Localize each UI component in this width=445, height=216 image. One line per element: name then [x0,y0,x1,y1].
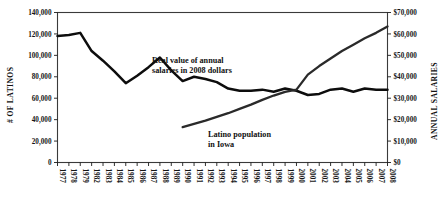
x-axis-tick-label: 1986 [138,169,146,184]
y-axis-right-tick-label: $70,000 [394,9,418,17]
chart-canvas: 020,00040,00060,00080,000100,000120,0001… [0,0,445,216]
y-axis-right-ticks: $0$10,000$20,000$30,000$40,000$50,000$60… [388,9,418,167]
y-axis-left-tick-label: 60,000 [32,95,52,103]
x-axis-tick-label: 2005 [354,169,362,184]
x-axis-tick-label: 1997 [263,169,271,184]
x-axis-tick-label: 1982 [92,169,100,184]
x-axis-tick-label: 1992 [206,169,214,184]
x-axis-tick-label: 1996 [252,169,260,184]
x-axis-tick-label: 2007 [377,169,385,184]
y-axis-right-tick-label: $30,000 [394,95,418,103]
y-axis-right-tick-label: $10,000 [394,138,418,146]
y-axis-left-tick-label: 120,000 [28,31,52,39]
y-axis-right-tick-label: $50,000 [394,52,418,60]
annotation-salaries: Real value of annual salaries in 2008 do… [152,56,232,75]
annotation-salaries-line2: salaries in 2008 dollars [152,66,232,75]
x-axis-tick-label: 1987 [149,169,157,184]
x-axis-tick-label: 1991 [195,169,203,184]
annotation-salaries-line1: Real value of annual [152,56,224,65]
x-axis-tick-label: 1990 [183,169,191,184]
y-axis-right-tick-label: $0 [394,159,402,167]
annotation-population-line2: in Iowa [208,140,234,149]
y-axis-right-tick-label: $40,000 [394,73,418,81]
x-axis-tick-label: 1979 [81,169,89,184]
y-axis-left-tick-label: 140,000 [28,9,52,17]
y-axis-left-tick-label: 80,000 [32,73,52,81]
x-axis-tick-label: 1989 [172,169,180,184]
y-axis-left-ticks: 020,00040,00060,00080,000100,000120,0001… [28,9,57,167]
x-axis-tick-label: 1983 [104,169,112,184]
x-axis-tick-label: 1988 [161,169,169,184]
x-axis-tick-label: 1977 [58,169,66,184]
y-axis-left-tick-label: 100,000 [28,52,52,60]
y-axis-left-title: # OF LATINOS [6,67,15,123]
y-axis-left-tick-label: 40,000 [32,116,52,124]
x-axis-tick-label: 1995 [240,169,248,184]
x-axis-tick-label: 2001 [308,169,316,184]
latino-population-salaries-chart: 020,00040,00060,00080,000100,000120,0001… [0,0,445,216]
x-axis-tick-label: 1985 [126,169,134,184]
y-axis-left-tick-label: 0 [48,159,52,167]
x-axis-tick-label: 1993 [217,169,225,184]
annotation-population-line1: Latino population [208,130,271,139]
x-axis-tick-label: 1994 [229,169,237,184]
x-axis-tick-label: 2002 [320,169,328,184]
x-axis-tick-label: 1984 [115,169,123,184]
y-axis-left-tick-label: 20,000 [32,138,52,146]
y-axis-right-tick-label: $60,000 [394,31,418,39]
x-axis-tick-label: 2003 [331,169,339,184]
y-axis-right-title: ANNUAL SALARIES [430,62,439,140]
x-axis-ticks: 1977197819791982198319841985198619871988… [58,163,397,184]
x-axis-tick-label: 1998 [274,169,282,184]
x-axis-tick-label: 2006 [365,169,373,184]
x-axis-tick-label: 1999 [286,169,294,184]
x-axis-tick-label: 2000 [297,169,305,184]
x-axis-tick-label: 2008 [388,169,396,184]
x-axis-tick-label: 2004 [343,169,351,184]
x-axis-tick-label: 1978 [69,169,77,184]
y-axis-right-tick-label: $20,000 [394,116,418,124]
